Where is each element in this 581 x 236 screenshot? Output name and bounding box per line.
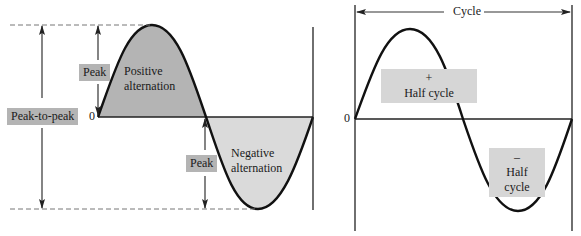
right-zero-label: 0 — [344, 111, 350, 126]
negative-alternation-label: Negative alternation — [231, 146, 282, 176]
cycle-label: Cycle — [450, 4, 484, 19]
left-zero-label: 0 — [89, 109, 95, 124]
sine-wave-diagrams — [0, 0, 581, 236]
peak-to-peak-label: Peak-to-peak — [7, 108, 78, 125]
positive-half-cycle-text: Half cycle — [387, 86, 471, 101]
negative-alternation-line1: Negative — [231, 146, 282, 161]
right-sine-diagram — [355, 5, 572, 231]
negative-alternation-line2: alternation — [231, 161, 282, 176]
negative-half-cycle-label: – Half cycle — [489, 148, 545, 197]
positive-peak-label: Peak — [79, 64, 110, 81]
negative-peak-label: Peak — [186, 155, 217, 172]
positive-alternation-line2: alternation — [124, 79, 175, 94]
positive-half-cycle-label: + Half cycle — [381, 69, 477, 103]
positive-alternation-label: Positive alternation — [124, 64, 175, 94]
negative-half-cycle-text: Half cycle — [495, 165, 539, 195]
positive-alternation-line1: Positive — [124, 64, 175, 79]
positive-sign: + — [387, 71, 471, 86]
negative-sign: – — [495, 150, 539, 165]
